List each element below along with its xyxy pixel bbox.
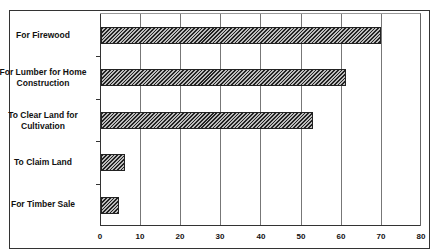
- y-tick: [96, 184, 100, 185]
- bar-firewood: [101, 27, 381, 44]
- category-label-lumber: For Lumber for Home Construction: [0, 67, 93, 89]
- x-tick-label: 70: [371, 232, 391, 241]
- x-tick-label: 0: [90, 232, 110, 241]
- y-tick: [96, 56, 100, 57]
- label-text: For Lumber for Home: [0, 67, 93, 78]
- x-tick-label: 80: [411, 232, 431, 241]
- x-axis: [100, 225, 420, 226]
- x-tick-label: 10: [130, 232, 150, 241]
- x-tick-label: 40: [251, 232, 271, 241]
- x-tick-label: 50: [291, 232, 311, 241]
- label-text: For Firewood: [16, 30, 70, 40]
- plot-area: [100, 13, 421, 226]
- x-tick-label: 30: [210, 232, 230, 241]
- y-tick: [96, 141, 100, 142]
- label-text: To Claim Land: [14, 157, 72, 167]
- bar-timber-sale: [101, 197, 119, 214]
- bar-claim-land: [101, 154, 125, 171]
- category-label-firewood: For Firewood: [0, 30, 93, 41]
- bar-clear-land: [101, 112, 313, 129]
- category-label-timber-sale: For Timber Sale: [0, 199, 93, 210]
- label-text: Cultivation: [0, 121, 93, 132]
- y-tick: [96, 99, 100, 100]
- label-text: For Timber Sale: [11, 199, 75, 209]
- label-text: To Clear Land for: [0, 110, 93, 121]
- bar-lumber: [101, 69, 346, 86]
- x-tick-label: 20: [170, 232, 190, 241]
- label-text: Construction: [0, 78, 93, 89]
- gridline-60: [341, 14, 342, 226]
- category-label-claim-land: To Claim Land: [0, 157, 93, 168]
- category-label-clear-land: To Clear Land for Cultivation: [0, 110, 93, 132]
- gridline-70: [381, 14, 382, 226]
- x-tick-label: 60: [331, 232, 351, 241]
